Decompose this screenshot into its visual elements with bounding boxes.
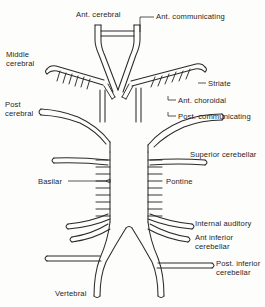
posterior-cerebral-artery-left [39, 109, 110, 144]
pontine-branches-left [96, 160, 110, 216]
label-striate: Striate [208, 79, 231, 88]
anterior-inferior-cerebellar-artery-right [148, 224, 190, 242]
label-ant-communicating: Ant. communicating [156, 12, 225, 21]
cerebral-artery-diagram: Ant. cerebral Ant. communicating Middle … [0, 0, 265, 307]
label-post-cerebral-line2: cerebral [5, 109, 33, 118]
basilar-tip-junction [110, 142, 148, 152]
label-internal-auditory: Internal auditory [195, 219, 252, 228]
posterior-communicating-artery-right [136, 88, 141, 122]
label-vertebral: Vertebral [55, 289, 86, 298]
anterior-communicating-artery [101, 31, 134, 36]
superior-cerebellar-artery-left [52, 158, 108, 165]
label-ant-inferior-cerebellar-line2: cerebellar [195, 242, 230, 251]
posterior-inferior-cerebellar-artery-left [45, 256, 101, 261]
label-ant-cerebral: Ant. cerebral [76, 10, 121, 19]
anterior-cerebral-artery-left [95, 25, 118, 92]
anterior-cerebral-artery-right [118, 25, 140, 92]
label-pontine: Pontine [166, 177, 193, 186]
label-post-inferior-cerebellar-line1: Post. inferior [216, 259, 260, 268]
posterior-communicating-artery-left [100, 90, 105, 122]
label-post-cerebral-line1: Post [5, 100, 21, 109]
label-middle-cerebral-line1: Middle [6, 50, 29, 59]
vertebral-artery-left [94, 222, 126, 298]
label-basilar: Basilar [38, 177, 62, 186]
posterior-inferior-cerebellar-artery-right [157, 263, 214, 268]
label-middle-cerebral-line2: cerebral [6, 59, 34, 68]
vertebrobasilar-junction [126, 227, 132, 229]
pontine-branches-right [148, 160, 162, 216]
basilar-artery [110, 152, 148, 222]
label-superior-cerebellar: Superior cerebellar [190, 150, 256, 159]
label-ant-choroidal: Ant. choroidal [178, 96, 226, 105]
middle-cerebral-artery-left [46, 66, 105, 85]
label-post-inferior-cerebellar-line2: cerebellar [216, 268, 251, 277]
label-ant-inferior-cerebellar-line1: Ant inferior [195, 233, 233, 242]
label-post-communicating: Post. communicating [178, 112, 251, 121]
vertebral-artery-right [132, 222, 164, 298]
anterior-inferior-cerebellar-artery-left [70, 224, 110, 242]
